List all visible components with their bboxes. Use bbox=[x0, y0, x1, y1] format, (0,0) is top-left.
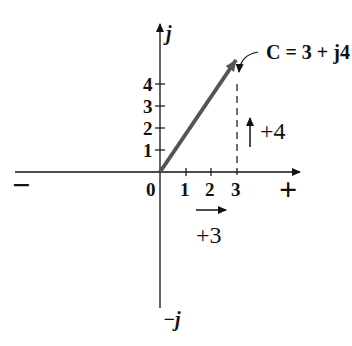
imag-neg-label: −j bbox=[163, 308, 181, 331]
imag-tick-3: 3 bbox=[143, 96, 153, 117]
imag-tick-4: 4 bbox=[143, 74, 153, 95]
imag-pos-label: j bbox=[163, 22, 172, 45]
vector-C bbox=[160, 60, 236, 172]
real-component-label: +3 bbox=[196, 222, 222, 248]
vector-label: C = 3 + j4 bbox=[266, 41, 350, 64]
real-neg-label: − bbox=[12, 167, 30, 203]
label-pointer-arrow bbox=[239, 52, 258, 72]
real-tick-2: 2 bbox=[205, 179, 215, 200]
imag-tick-2: 2 bbox=[143, 118, 153, 139]
real-tick-3: 3 bbox=[231, 179, 241, 200]
real-pos-label: + bbox=[279, 171, 297, 207]
origin-label: 0 bbox=[146, 179, 156, 200]
complex-plane-diagram: j −j − + 0 1 2 3 1 2 3 4 C = 3 + j4 +4 +… bbox=[0, 0, 352, 346]
imag-tick-1: 1 bbox=[143, 140, 153, 161]
real-tick-1: 1 bbox=[180, 179, 190, 200]
imag-component-label: +4 bbox=[260, 118, 286, 144]
